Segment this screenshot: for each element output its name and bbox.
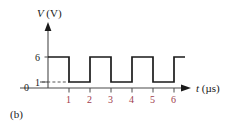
x-tick-label-2: 2 (87, 94, 92, 105)
x-tick-label-3: 3 (108, 94, 113, 105)
y-axis-label-unit: (V) (46, 7, 62, 20)
x-tick-label-6: 6 (171, 94, 176, 105)
y-axis-arrowhead (45, 22, 52, 31)
x-tick-marks (69, 88, 174, 93)
y-tick-label-1: 1 (35, 77, 40, 88)
y-axis-title: V (V) (37, 7, 62, 20)
x-tick-label-1: 1 (66, 94, 71, 105)
origin-label: 0 (24, 82, 29, 93)
x-tick-label-4: 4 (129, 94, 134, 105)
x-axis-arrowhead (181, 84, 191, 91)
figure-panel: V (V) t (µs) 0 6 1 1 2 3 4 5 6 (b) (0, 0, 241, 124)
x-tick-label-5: 5 (150, 94, 155, 105)
waveform-trace (48, 57, 185, 82)
y-tick-marks (40, 57, 48, 82)
voltage-waveform-chart: V (V) t (µs) 0 6 1 1 2 3 4 5 6 (b) (0, 0, 241, 124)
x-axis-label-unit: (µs) (202, 82, 220, 95)
y-tick-label-6: 6 (35, 52, 40, 63)
x-axis-title: t (µs) (196, 82, 220, 95)
panel-label: (b) (10, 108, 23, 121)
